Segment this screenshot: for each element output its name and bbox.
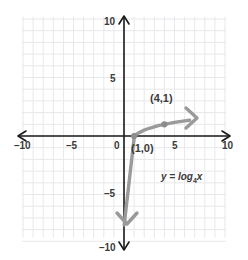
curve-arrow-right (186, 108, 197, 128)
point-label-4-1: (4,1) (150, 93, 173, 104)
equation-label: y = log4x (161, 172, 202, 184)
x-tick-label-5: 5 (172, 141, 178, 151)
data-point-0 (131, 133, 137, 139)
x-tick-label-0: 0 (114, 141, 120, 151)
equation-text: y = log (161, 171, 193, 182)
x-tick-label--5: –5 (66, 141, 77, 151)
data-point-1 (161, 121, 167, 127)
coordinate-plane-chart (0, 0, 248, 260)
point-label-1-0: (1,0) (131, 143, 154, 154)
equation-arg: x (197, 171, 203, 182)
y-tick-label--10: –10 (99, 243, 116, 253)
y-tick-label--5: –5 (104, 189, 115, 199)
y-tick-label-10: 10 (104, 17, 115, 27)
x-tick-label--10: –10 (14, 141, 31, 151)
x-tick-label-10: 10 (222, 141, 233, 151)
y-tick-label-5: 5 (110, 74, 116, 84)
